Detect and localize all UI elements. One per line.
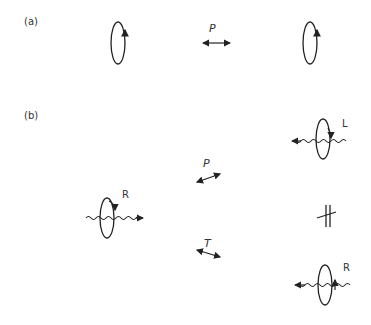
particle-top-L [292, 119, 346, 159]
double-arrow-p-b [197, 174, 220, 182]
particle-left-R [86, 198, 143, 238]
double-arrow-t-b [197, 250, 220, 257]
diagram-canvas [0, 0, 371, 325]
not-equal-icon [317, 205, 336, 227]
loop-a-right [303, 22, 317, 64]
particle-bottom-R [295, 265, 350, 305]
loop-a-left [111, 22, 125, 64]
